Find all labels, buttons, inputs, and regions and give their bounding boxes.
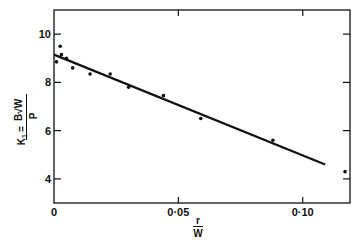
data-point: [108, 72, 112, 76]
data-point: [127, 85, 131, 89]
data-point: [58, 44, 62, 48]
chart: 46810 00·050·10 r W K1 = B√W P: [0, 0, 358, 246]
x-label-denominator: W: [193, 228, 203, 239]
y-axis-ticks: 46810: [39, 28, 350, 185]
fitted-line: [54, 55, 325, 165]
data-point: [199, 117, 203, 121]
y-label-denominator: P: [28, 112, 39, 119]
data-point: [65, 56, 69, 60]
x-axis-label: r W: [193, 215, 203, 239]
y-tick-label: 6: [45, 125, 51, 137]
x-axis-ticks: 00·050·10: [51, 10, 314, 218]
y-label-numerator: B√W: [13, 98, 24, 121]
data-point: [71, 66, 75, 70]
x-tick-label: 0·05: [167, 206, 189, 218]
fit-line-segment: [54, 55, 325, 165]
y-tick-label: 4: [45, 173, 52, 185]
data-point: [162, 94, 166, 98]
data-points: [55, 44, 347, 173]
data-point: [343, 170, 347, 174]
y-tick-label: 8: [45, 76, 51, 88]
y-label-equals: =: [16, 126, 27, 132]
x-label-numerator: r: [196, 215, 200, 226]
data-point: [55, 60, 59, 64]
x-tick-label: 0·10: [292, 206, 314, 218]
y-tick-label: 10: [39, 28, 51, 40]
plot-frame: [54, 10, 350, 203]
x-tick-label: 0: [51, 206, 57, 218]
y-axis-label: K1 = B√W P: [13, 94, 39, 145]
data-point: [60, 53, 64, 57]
data-point: [88, 72, 92, 76]
data-point: [271, 138, 275, 142]
